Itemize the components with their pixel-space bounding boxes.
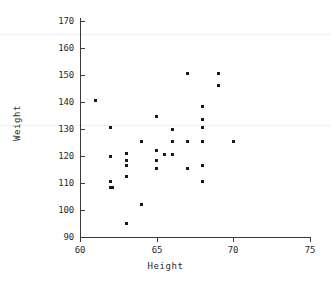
data-point bbox=[186, 167, 189, 170]
y-tick-label-text: 160 bbox=[46, 44, 74, 53]
data-point bbox=[232, 140, 235, 143]
data-point bbox=[201, 164, 204, 167]
data-point bbox=[171, 140, 174, 143]
data-point bbox=[140, 203, 143, 206]
data-point bbox=[125, 159, 128, 162]
y-tick-label: 170 bbox=[44, 17, 74, 26]
y-tick-label-text: 90 bbox=[46, 233, 74, 242]
y-tick-label-text: 100 bbox=[46, 206, 74, 215]
x-tick-label: 65 bbox=[142, 245, 172, 255]
x-tick-label: 60 bbox=[65, 245, 95, 255]
data-point bbox=[155, 115, 158, 118]
data-point bbox=[109, 126, 112, 129]
scatter-chart: 90100110120130140150160170 60657075 Weig… bbox=[0, 0, 331, 284]
data-point bbox=[155, 149, 158, 152]
y-tick-label-text: 130 bbox=[46, 125, 74, 134]
y-tick-label: 150 bbox=[44, 71, 74, 80]
data-point bbox=[109, 180, 112, 183]
y-tick-label: 110 bbox=[44, 179, 74, 188]
y-tick-label-text: 170 bbox=[46, 17, 74, 26]
data-point bbox=[217, 72, 220, 75]
data-point bbox=[201, 118, 204, 121]
data-point bbox=[163, 153, 166, 156]
x-tick-label-text: 60 bbox=[65, 245, 95, 255]
x-tick bbox=[233, 237, 234, 242]
data-point bbox=[171, 128, 174, 131]
data-point bbox=[125, 152, 128, 155]
data-point bbox=[201, 105, 204, 108]
y-tick-label-text: 140 bbox=[46, 98, 74, 107]
data-point bbox=[140, 140, 143, 143]
data-point bbox=[111, 186, 114, 189]
x-tick-label-text: 65 bbox=[142, 245, 172, 255]
x-tick-label: 70 bbox=[218, 245, 248, 255]
plot-area bbox=[80, 21, 310, 237]
data-point bbox=[155, 167, 158, 170]
x-tick bbox=[157, 237, 158, 242]
y-tick-label: 160 bbox=[44, 44, 74, 53]
data-point bbox=[125, 164, 128, 167]
y-tick-label-text: 120 bbox=[46, 152, 74, 161]
data-point bbox=[155, 159, 158, 162]
y-tick-label: 90 bbox=[44, 233, 74, 242]
data-point bbox=[125, 175, 128, 178]
x-tick bbox=[310, 237, 311, 242]
data-point bbox=[94, 99, 97, 102]
y-tick-label: 100 bbox=[44, 206, 74, 215]
data-point bbox=[201, 180, 204, 183]
data-point bbox=[217, 84, 220, 87]
data-point bbox=[171, 153, 174, 156]
y-tick-label-text: 150 bbox=[46, 71, 74, 80]
x-tick-label-text: 70 bbox=[218, 245, 248, 255]
x-tick-label-text: 75 bbox=[295, 245, 325, 255]
data-point bbox=[109, 155, 112, 158]
y-tick-label: 130 bbox=[44, 125, 74, 134]
data-point bbox=[186, 140, 189, 143]
x-axis-title: Height bbox=[0, 261, 331, 271]
y-tick-label: 120 bbox=[44, 152, 74, 161]
data-point bbox=[186, 72, 189, 75]
y-tick-label-text: 110 bbox=[46, 179, 74, 188]
x-tick bbox=[80, 237, 81, 242]
y-tick-label: 140 bbox=[44, 98, 74, 107]
x-tick-label: 75 bbox=[295, 245, 325, 255]
data-point bbox=[201, 140, 204, 143]
x-axis-line bbox=[80, 237, 311, 238]
data-point bbox=[125, 222, 128, 225]
y-axis-title: Weight bbox=[12, 95, 22, 151]
data-point bbox=[201, 126, 204, 129]
